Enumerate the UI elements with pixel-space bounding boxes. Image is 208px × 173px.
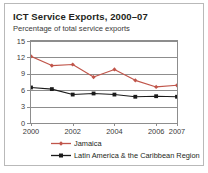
chart-figure: ICT Service Exports, 2000–07 Percentage …: [0, 0, 208, 173]
y-axis-tick-label: 6: [9, 86, 25, 95]
x-axis-tick-label: 2002: [58, 127, 88, 136]
y-axis-tick-label: 15: [9, 37, 25, 46]
x-axis-tick-label: 2000: [16, 127, 46, 136]
legend-label: Jamaica: [74, 139, 102, 148]
series-marker-0: [31, 54, 33, 58]
series-marker-1: [71, 93, 75, 97]
plot-area: [30, 40, 178, 124]
series-marker-0: [154, 85, 158, 89]
y-axis-tick-label: 9: [9, 69, 25, 78]
legend-swatch: [50, 151, 72, 160]
legend-swatch: [50, 139, 72, 148]
y-axis-tick-label: 3: [9, 102, 25, 111]
chart-title: ICT Service Exports, 2000–07: [13, 11, 148, 22]
series-marker-1: [133, 95, 137, 99]
series-line-0: [31, 56, 177, 87]
data-series-layer: [31, 41, 177, 123]
series-marker-1: [31, 86, 33, 90]
series-marker-0: [50, 64, 54, 68]
series-marker-0: [133, 78, 137, 82]
legend-label: Latin America & the Caribbean Region: [74, 151, 200, 160]
x-axis-tick-label: 2004: [99, 127, 129, 136]
series-marker-1: [50, 87, 54, 91]
series-marker-0: [112, 67, 116, 71]
x-axis-tick-label: 2007: [162, 127, 192, 136]
y-axis-tick-label: 12: [9, 53, 25, 62]
series-marker-0: [175, 83, 177, 87]
series-marker-1: [154, 94, 158, 98]
chart-subtitle: Percentage of total service exports: [13, 24, 130, 33]
series-marker-1: [92, 92, 96, 96]
series-marker-1: [175, 95, 177, 99]
series-marker-1: [113, 93, 117, 97]
